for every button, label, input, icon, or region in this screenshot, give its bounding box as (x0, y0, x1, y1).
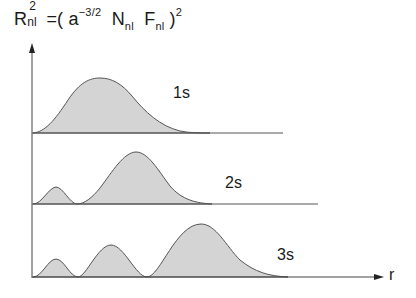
formula-a: a (69, 9, 79, 29)
formula-R: R (14, 9, 27, 29)
label-3s: 3s (277, 246, 294, 264)
label-r-axis: r (389, 266, 394, 284)
y-axis-arrow-icon (29, 43, 35, 53)
formula-N: N (112, 9, 125, 29)
formula-F: F (144, 9, 155, 29)
r-axis-arrow-icon (374, 274, 384, 280)
label-2s: 2s (225, 174, 242, 192)
formula-equals: =( (46, 9, 63, 29)
curve-3s (33, 224, 288, 277)
formula-close: ) (170, 9, 176, 29)
curve-2s (33, 152, 212, 204)
formula-R-indices: 2nl (27, 15, 41, 25)
radial-distribution-diagram (0, 0, 416, 298)
formula: R2nl =( a−3/2 Nnl Fnl )2 (14, 9, 182, 30)
label-1s: 1s (173, 84, 190, 102)
